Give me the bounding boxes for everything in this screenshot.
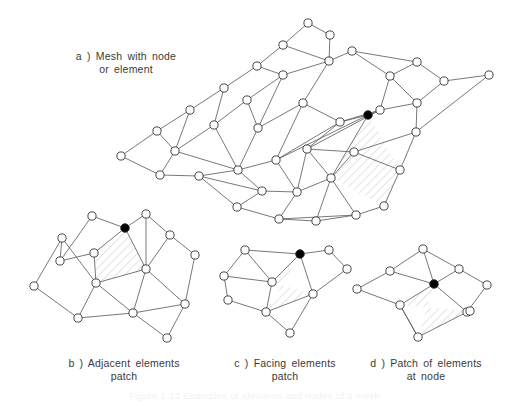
mesh-node xyxy=(336,118,344,126)
mesh-edge xyxy=(258,103,303,128)
mesh-node xyxy=(386,267,394,275)
mesh-edge xyxy=(34,286,78,318)
mesh-node xyxy=(210,121,218,129)
mesh-edge xyxy=(175,110,190,151)
mesh-edge xyxy=(357,289,400,305)
mesh-node xyxy=(348,47,356,55)
mesh-edge xyxy=(257,45,283,66)
mesh-edge xyxy=(224,66,257,88)
mesh-node xyxy=(326,31,334,39)
mesh-node xyxy=(58,234,66,242)
mesh-edge xyxy=(78,283,96,318)
mesh-edge xyxy=(380,76,390,110)
mesh-edge xyxy=(92,216,125,228)
mesh-edge xyxy=(279,192,297,219)
mesh-node xyxy=(483,281,491,289)
mesh-edge xyxy=(307,122,340,149)
mesh-edge xyxy=(380,103,417,110)
mesh-edge xyxy=(62,238,96,283)
figure-container: a ) Mesh with node or element b ) Adjace… xyxy=(0,0,509,408)
mesh-node xyxy=(262,308,270,316)
mesh-edge xyxy=(390,62,417,76)
mesh-edge xyxy=(160,175,199,176)
panel-label-c: c ) Facing elements patch xyxy=(215,357,355,383)
mesh-node xyxy=(275,215,283,223)
mesh-node xyxy=(191,251,199,259)
mesh-edge xyxy=(276,103,303,160)
mesh-edge xyxy=(262,191,297,192)
mesh-node xyxy=(309,290,317,298)
mesh-edge xyxy=(146,235,170,269)
mesh-node xyxy=(304,19,312,27)
mesh-node xyxy=(92,279,100,287)
mesh-node xyxy=(413,99,421,107)
mesh-node xyxy=(88,212,96,220)
mesh-edge xyxy=(237,207,279,219)
mesh-edge xyxy=(214,125,238,170)
mesh-node xyxy=(253,62,261,70)
mesh-node xyxy=(419,245,427,253)
mesh-edge xyxy=(300,254,313,294)
mesh-edge xyxy=(214,100,247,125)
mesh-edge xyxy=(316,178,331,221)
mesh-node xyxy=(163,334,171,342)
mesh-edge xyxy=(276,160,297,192)
mesh-node xyxy=(195,172,203,180)
mesh-edge xyxy=(133,304,185,313)
mesh-edge xyxy=(400,132,416,170)
mesh-edge xyxy=(417,62,444,81)
figure-caption: Figure 1.12 Examples of elements and nod… xyxy=(0,390,509,401)
mesh-edge xyxy=(390,271,434,284)
mesh-edge xyxy=(258,75,283,128)
mesh-node xyxy=(56,257,64,265)
mesh-edge xyxy=(245,250,300,254)
mesh-node xyxy=(412,128,420,136)
mesh-edge xyxy=(199,170,238,176)
mesh-edge xyxy=(133,313,167,338)
mesh-node xyxy=(343,265,351,273)
mesh-node xyxy=(386,72,394,80)
mesh-edge xyxy=(352,51,390,76)
mesh-node xyxy=(279,71,287,79)
mesh-edge xyxy=(307,149,331,178)
mesh-edge xyxy=(283,45,329,61)
highlighted-mesh-node xyxy=(121,224,130,233)
mesh-node xyxy=(142,210,150,218)
mesh-node xyxy=(414,333,422,341)
panel-label-a: a ) Mesh with node or element xyxy=(46,50,206,76)
mesh-node xyxy=(485,71,493,79)
mesh-node xyxy=(268,278,276,286)
mesh-node xyxy=(30,282,38,290)
mesh-node xyxy=(466,307,474,315)
mesh-edge xyxy=(238,160,276,170)
mesh-node xyxy=(233,203,241,211)
mesh-edge xyxy=(313,269,347,294)
mesh-node xyxy=(186,106,194,114)
mesh-node xyxy=(241,246,249,254)
mesh-edge xyxy=(400,305,418,337)
mesh-node xyxy=(90,249,98,257)
mesh-node xyxy=(220,272,228,280)
mesh-edge xyxy=(303,103,340,122)
mesh-node xyxy=(279,41,287,49)
mesh-edge xyxy=(157,110,190,131)
mesh-edge xyxy=(459,269,487,285)
mesh-node xyxy=(243,96,251,104)
mesh-edge xyxy=(224,276,272,282)
mesh-edge xyxy=(224,250,245,276)
mesh-node xyxy=(142,265,150,273)
mesh-edge xyxy=(390,249,423,271)
mesh-node xyxy=(440,77,448,85)
mesh-edge xyxy=(96,283,133,313)
mesh-node xyxy=(325,246,333,254)
mesh-edge xyxy=(167,304,185,338)
mesh-node xyxy=(376,106,384,114)
mesh-edge xyxy=(133,269,146,313)
highlighted-mesh-node xyxy=(430,280,439,289)
mesh-node xyxy=(299,99,307,107)
mesh-edge xyxy=(283,23,308,45)
mesh-edge xyxy=(434,284,467,312)
mesh-edge xyxy=(276,122,340,160)
mesh-node xyxy=(312,217,320,225)
highlighted-mesh-node xyxy=(364,111,373,120)
